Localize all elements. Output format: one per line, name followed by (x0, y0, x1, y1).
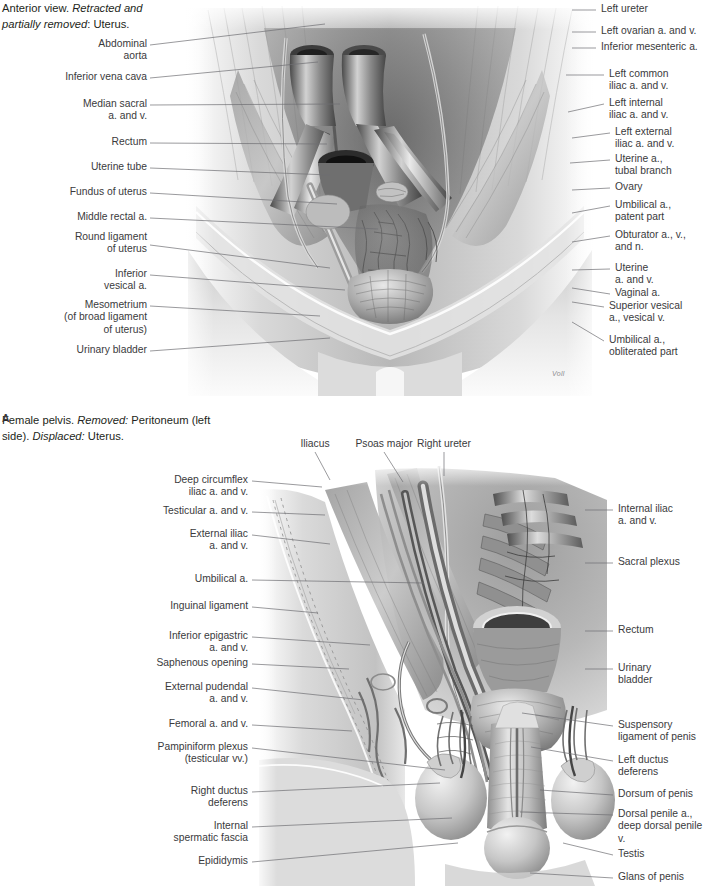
figure-a-label-mesometrium: Mesometrium (of broad ligament of uterus… (24, 299, 147, 336)
figure-b-label-right-ureter: Right ureter (405, 438, 483, 450)
header-italic-1: Retracted and (72, 2, 142, 14)
figure-a-illustration (178, 0, 602, 396)
caption-italic-displaced: Displaced: (32, 430, 84, 442)
figure-a-label-left-external-iliac-av: Left external iliac a. and v. (615, 126, 710, 151)
figure-b-label-saphenous-opening: Saphenous opening (110, 657, 248, 669)
figure-b-label-glans-of-penis: Glans of penis (618, 871, 710, 883)
figure-b-label-external-iliac-av: External iliac a. and v. (110, 528, 248, 553)
figure-a-label-abdominal-aorta: Abdominal aorta (32, 38, 147, 63)
figure-a-label-umbilical-a-patent: Umbilical a., patent part (615, 199, 710, 224)
artist-signature: Voll (552, 370, 565, 377)
figure-b-label-dorsum-of-penis: Dorsum of penis (618, 788, 710, 800)
caption-a: A Female pelvis. Removed: Peritoneum (le… (2, 413, 292, 444)
header-plain-1: Anterior view. (2, 2, 72, 14)
figure-a-label-inferior-vena-cava: Inferior vena cava (32, 71, 147, 83)
caption-italic-removed: Removed: (77, 414, 128, 426)
figure-b-label-epididymis: Epididymis (110, 855, 248, 867)
figure-a-label-ovary: Ovary (615, 181, 710, 193)
figure-a-label-fundus-of-uterus: Fundus of uterus (32, 186, 147, 198)
figure-b-label-urinary-bladder-b: Urinary bladder (618, 662, 710, 687)
figure-b-label-inguinal-ligament: Inguinal ligament (110, 600, 248, 612)
figure-b-label-rectum-b: Rectum (618, 624, 710, 636)
figure-b-label-internal-spermatic-fascia: Internal spermatic fascia (110, 820, 248, 845)
figure-b-label-left-ductus-deferens: Left ductus deferens (618, 754, 710, 779)
figure-a-label-round-ligament-uterus: Round ligament of uterus (32, 231, 147, 256)
atlas-page: Anterior view. Retracted and partially r… (0, 0, 710, 886)
figure-b-label-femoral-av: Femoral a. and v. (110, 718, 248, 730)
figure-b-illustration (255, 460, 615, 886)
caption-letter: A (2, 413, 9, 425)
figure-b-label-sacral-plexus: Sacral plexus (618, 556, 710, 568)
figure-b-label-testicular-av: Testicular a. and v. (110, 505, 248, 517)
figure-a-label-left-ovarian-av: Left ovarian a. and v. (601, 25, 710, 37)
caption-text-1: Female pelvis. (2, 414, 77, 426)
figure-a-label-uterine-tube: Uterine tube (32, 161, 147, 173)
figure-b-label-external-pudendal-av: External pudendal a. and v. (110, 681, 248, 706)
figure-a-label-superior-vesical-a: Superior vesical a., vesical v. (609, 300, 710, 325)
figure-a-label-inferior-mesenteric-a: Inferior mesenteric a. (601, 41, 710, 53)
figure-a-label-uterine-av: Uterine a. and v. (615, 262, 710, 287)
figure-a-label-inferior-vesical-a: Inferior vesical a. (32, 268, 147, 293)
figure-b-label-iliacus: Iliacus (288, 438, 342, 450)
figure-a-label-left-common-iliac-av: Left common iliac a. and v. (609, 68, 710, 93)
figure-a-label-left-ureter: Left ureter (601, 3, 710, 15)
figure-b-label-inferior-epigastric-av: Inferior epigastric a. and v. (110, 630, 248, 655)
header-plain-2: : Uterus. (87, 18, 129, 30)
figure-a-label-rectum-a: Rectum (32, 136, 147, 148)
figure-b-label-right-ductus-deferens: Right ductus deferens (110, 785, 248, 810)
figure-b-label-testis: Testis (618, 848, 710, 860)
figure-a-label-median-sacral-av: Median sacral a. and v. (32, 98, 147, 123)
figure-b-label-internal-iliac-av-b: Internal iliac a. and v. (618, 503, 710, 528)
figure-b-label-deep-circumflex-iliac-av: Deep circumflex iliac a. and v. (110, 474, 248, 499)
figure-a-label-left-internal-iliac-av: Left internal iliac a. and v. (609, 97, 710, 122)
caption-text-4: Uterus. (85, 430, 124, 442)
figure-b-label-pampiniform-plexus: Pampiniform plexus (testicular vv.) (105, 741, 248, 766)
caption-text-2: Peritoneum (left (128, 414, 210, 426)
figure-b-label-umbilical-a-b: Umbilical a. (110, 573, 248, 585)
header-italic-2: partially removed (2, 18, 87, 30)
caption-text-3: side). (2, 430, 32, 442)
figure-a-label-obturator-avn: Obturator a., v., and n. (615, 229, 710, 254)
figure-a-header: Anterior view. Retracted and partially r… (2, 1, 252, 32)
figure-a-label-uterine-a-tubal-branch: Uterine a., tubal branch (615, 153, 710, 178)
figure-a-label-vaginal-a: Vaginal a. (615, 287, 710, 299)
figure-b-label-suspensory-ligament-penis: Suspensory ligament of penis (618, 719, 710, 744)
figure-a-label-middle-rectal-a: Middle rectal a. (32, 211, 147, 223)
figure-a-label-urinary-bladder-a: Urinary bladder (32, 344, 147, 356)
figure-a-label-umbilical-a-obliterated: Umbilical a., obliterated part (609, 334, 710, 359)
figure-b-label-dorsal-penile-vessels: Dorsal penile a., deep dorsal penile v. (618, 808, 710, 845)
